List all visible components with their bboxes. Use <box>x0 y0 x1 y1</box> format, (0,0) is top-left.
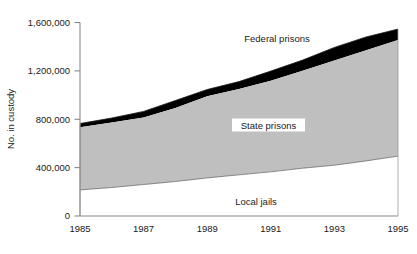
x-tick-label-1993: 1993 <box>324 223 345 234</box>
x-tick-label-1995: 1995 <box>387 223 408 234</box>
chart-figure: 0 400,000 800,000 1,200,000 1,600,000 19… <box>0 0 417 254</box>
y-axis-title: No. in custody <box>5 89 16 149</box>
y-tick-label-400000: 400,000 <box>36 162 70 173</box>
series-label-local-jails: Local jails <box>235 196 277 207</box>
x-tick-label-1987: 1987 <box>133 223 154 234</box>
stacked-area-chart: 0 400,000 800,000 1,200,000 1,600,000 19… <box>0 0 417 254</box>
y-tick-label-800000: 800,000 <box>36 114 70 125</box>
series-label-federal-prisons: Federal prisons <box>244 33 310 44</box>
series-label-state-prisons: State prisons <box>241 120 297 131</box>
x-tick-label-1989: 1989 <box>197 223 218 234</box>
y-tick-label-0: 0 <box>65 210 70 221</box>
x-tick-label-1985: 1985 <box>69 223 90 234</box>
y-tick-label-1200000: 1,200,000 <box>28 65 70 76</box>
y-tick-label-1600000: 1,600,000 <box>28 17 70 28</box>
x-tick-label-1991: 1991 <box>260 223 281 234</box>
